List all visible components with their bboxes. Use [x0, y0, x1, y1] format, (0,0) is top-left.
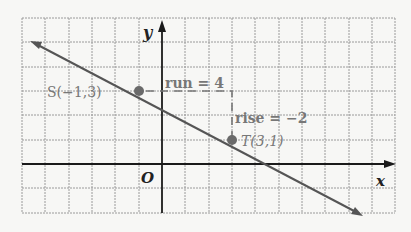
point-t	[227, 135, 237, 145]
point-s	[134, 86, 144, 96]
point-t-label: T(3,1)	[241, 133, 284, 149]
y-axis-label: y	[142, 23, 154, 42]
x-axis-arrow-icon	[384, 160, 396, 168]
rise-label: rise = −2	[235, 110, 307, 126]
y-axis	[158, 20, 166, 213]
run-label: run = 4	[165, 75, 224, 91]
run-rise-guides	[146, 91, 232, 136]
y-axis-arrow-icon	[158, 20, 166, 32]
grid	[22, 18, 395, 213]
line-arrow-left-icon	[30, 41, 42, 49]
x-axis-label: x	[375, 172, 386, 190]
point-s-label: S(−1,3)	[47, 84, 102, 100]
line-arrow-right-icon	[351, 207, 363, 216]
origin-label: O	[141, 169, 154, 187]
coordinate-plane: y x O S(−1,3) T(3,1) run = 4 rise = −2	[0, 0, 411, 232]
